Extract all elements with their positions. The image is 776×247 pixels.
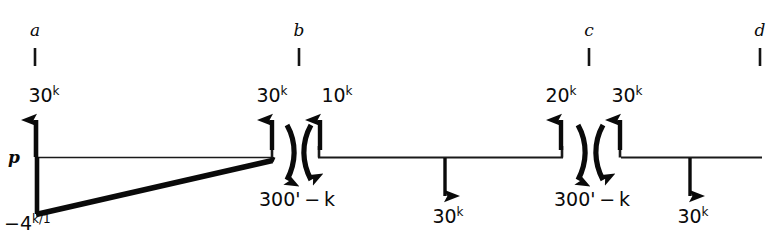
force-exp-right-down: k (702, 205, 709, 219)
force-value-a-up: 30 (28, 84, 52, 106)
distributed-load-peak-value: −4 (4, 212, 32, 234)
force-exp-b-left-up: k (281, 84, 288, 98)
station-label-b: b (294, 22, 305, 39)
triangular-distributed-load (36, 157, 274, 215)
force-label-b-right-up: 10k (321, 86, 352, 105)
station-label-d: d (755, 22, 766, 39)
force-exp-c-right-up: k (636, 84, 643, 98)
station-label-a: a (30, 22, 40, 39)
moment-c-left-curve (578, 125, 585, 180)
structural-diagram: a b c d p 30k 30k 10k 30k 20k 30k 30k 30… (0, 0, 776, 247)
diagram-vector-layer (0, 0, 776, 247)
force-value-mid-down: 30 (432, 205, 456, 227)
moment-c-right-curve (596, 125, 603, 180)
up-force-arrows (36, 120, 620, 157)
force-label-c-right-up: 30k (611, 86, 642, 105)
station-label-c: c (584, 22, 594, 39)
baseline-label-p: p (8, 149, 20, 166)
moment-b-right-curve (304, 125, 311, 180)
force-value-c-left-up: 20 (545, 84, 569, 106)
force-exp-b-right-up: k (346, 84, 353, 98)
moment-arrows-c (578, 125, 603, 180)
force-exp-mid-down: k (457, 205, 464, 219)
force-exp-a-up: k (53, 84, 60, 98)
force-label-right-down: 30k (677, 207, 708, 226)
moment-b-left-curve (287, 125, 294, 180)
distributed-load-peak-label: −4k/1 (4, 214, 51, 233)
moment-label-c: 300' − k (554, 190, 630, 209)
force-exp-c-left-up: k (570, 84, 577, 98)
force-label-c-left-up: 20k (545, 86, 576, 105)
station-ticks (35, 48, 760, 66)
force-value-c-right-up: 30 (611, 84, 635, 106)
force-label-mid-down: 30k (432, 207, 463, 226)
force-value-b-right-up: 10 (321, 84, 345, 106)
force-label-a-up: 30k (28, 86, 59, 105)
force-label-b-left-up: 30k (256, 86, 287, 105)
segment-end-risers (272, 146, 620, 158)
moment-label-b: 300' − k (259, 190, 335, 209)
distributed-load-peak-exp: k/1 (32, 212, 51, 226)
force-value-b-left-up: 30 (256, 84, 280, 106)
moment-arrows-b (287, 125, 311, 180)
force-value-right-down: 30 (677, 205, 701, 227)
